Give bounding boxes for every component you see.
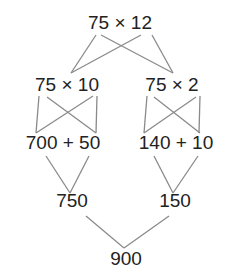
node-final: 900 [110, 249, 142, 269]
edge-left_factor-to-left_sum [36, 96, 39, 133]
edge-root-to-left_factor [71, 35, 141, 73]
edge-left_sum-to-left_total [70, 156, 89, 193]
edge-left_total-to-final [86, 216, 124, 248]
node-left-total: 750 [56, 191, 88, 211]
edge-right_factor-to-right_sum [144, 97, 196, 133]
node-right-factor: 75 × 2 [145, 75, 198, 95]
edge-left_sum-to-left_total [46, 156, 70, 193]
edge-right_factor-to-right_sum [144, 96, 147, 133]
edge-left_factor-to-left_sum [96, 96, 97, 133]
node-left-factor: 75 × 10 [35, 75, 99, 95]
edge-right_sum-to-right_total [154, 156, 173, 193]
edge-right_sum-to-right_total [173, 156, 198, 193]
node-left-sum: 700 + 50 [26, 133, 101, 153]
edge-right_factor-to-right_sum [199, 96, 200, 133]
edge-right_factor-to-right_sum [154, 97, 200, 133]
node-right-sum: 140 + 10 [139, 133, 214, 153]
node-root: 75 × 12 [88, 13, 152, 33]
edge-root-to-left_factor [71, 35, 96, 73]
edge-right_total-to-final [124, 216, 169, 248]
edge-left_factor-to-left_sum [47, 97, 96, 133]
node-right-total: 150 [159, 191, 191, 211]
edge-left_factor-to-left_sum [36, 96, 93, 133]
